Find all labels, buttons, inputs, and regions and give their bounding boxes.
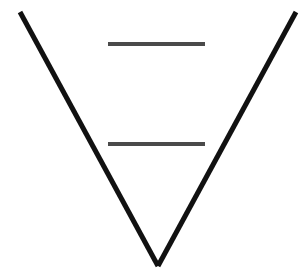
stimulus-svg bbox=[0, 0, 302, 269]
figure-background bbox=[0, 0, 302, 269]
ponzo-illusion-figure bbox=[0, 0, 302, 269]
